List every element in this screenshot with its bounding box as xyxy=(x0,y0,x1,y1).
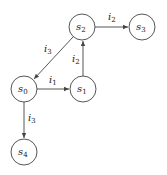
edge-label-s2-s0: i3 xyxy=(44,43,52,56)
node-s4: s4 xyxy=(11,139,37,165)
node-s1: s1 xyxy=(70,76,96,102)
edge-label-s0-s4: i3 xyxy=(28,112,36,125)
node-s2: s2 xyxy=(69,14,95,40)
node-s0: s0 xyxy=(11,76,37,102)
edge-label-s2-s3: i2 xyxy=(108,11,116,24)
edge-s2-s0 xyxy=(34,37,73,79)
edge-label-s0-s1: i1 xyxy=(49,74,57,87)
state-diagram: i1 i2 i2 i3 i3 s0 s1 s2 s3 s4 xyxy=(0,0,167,175)
node-s3: s3 xyxy=(129,14,155,40)
edge-label-s1-s2: i2 xyxy=(72,53,80,66)
